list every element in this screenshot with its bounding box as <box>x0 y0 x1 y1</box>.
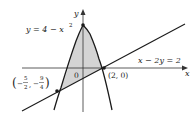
shaded-region <box>57 25 104 92</box>
origin-label: 0 <box>74 71 79 80</box>
x-axis-label: x <box>185 69 190 78</box>
paren-open: ( <box>12 76 17 90</box>
point-left-label: ( − 5 2 , − 9 4 ) <box>12 75 50 90</box>
region-diagram: y x y = 4 − x 2 x − 2y = 2 0 (2, 0) ( − … <box>0 0 195 118</box>
sign-y: − <box>33 80 39 88</box>
curve-label: y = 4 − x <box>25 25 64 34</box>
intersection-point-right <box>102 66 106 70</box>
line-label: x − 2y = 2 <box>138 56 181 65</box>
paren-close: ) <box>45 76 50 90</box>
sign-x: − <box>17 80 23 88</box>
curve-label-exponent: 2 <box>69 22 73 28</box>
intersection-point-left <box>55 89 59 93</box>
point-right-label: (2, 0) <box>108 71 128 80</box>
x-den: 2 <box>24 84 28 90</box>
x-num: 5 <box>24 75 28 81</box>
comma: , <box>29 81 31 89</box>
vertex-point <box>81 23 85 27</box>
y-num: 9 <box>40 75 44 81</box>
y-axis-arrow-icon <box>81 9 86 15</box>
y-axis-label: y <box>73 9 79 18</box>
y-den: 4 <box>40 84 44 90</box>
